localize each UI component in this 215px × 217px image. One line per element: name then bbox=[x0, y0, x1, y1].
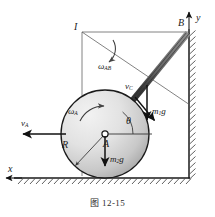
label-radius-R: R bbox=[62, 140, 68, 150]
label-velocity-vC: vC bbox=[125, 82, 133, 92]
label-weight-m2g: m2g bbox=[110, 155, 124, 165]
m1g-tail: g bbox=[161, 106, 166, 116]
label-angle-theta: θ bbox=[126, 116, 131, 126]
ground-surface bbox=[14, 178, 191, 184]
label-weight-m1g: m1g bbox=[152, 107, 166, 117]
label-point-A: A bbox=[103, 139, 109, 149]
mechanics-diagram-svg bbox=[0, 0, 215, 217]
label-point-B: B bbox=[178, 18, 184, 28]
figure-caption: 图 12-15 bbox=[0, 196, 215, 209]
omega-AB-subscript: AB bbox=[104, 65, 111, 71]
label-axis-y: y bbox=[196, 13, 200, 23]
vC-subscript: C bbox=[129, 85, 133, 91]
m2g-tail: g bbox=[119, 154, 124, 164]
label-velocity-vA: vA bbox=[21, 119, 28, 129]
wall-hatching bbox=[190, 31, 196, 180]
label-axis-x: x bbox=[8, 164, 12, 174]
ground-hatching bbox=[18, 179, 191, 184]
figure-container: I B y x A R θ ωAB ωA vC vA m1g m2g 图 12-… bbox=[0, 0, 215, 217]
label-omega-AB: ωAB bbox=[98, 62, 111, 72]
omega-A-subscript: A bbox=[74, 110, 77, 116]
vA-subscript: A bbox=[25, 122, 28, 128]
vertical-wall bbox=[189, 29, 196, 179]
label-point-I: I bbox=[74, 22, 77, 32]
label-omega-A: ωA bbox=[68, 107, 78, 117]
